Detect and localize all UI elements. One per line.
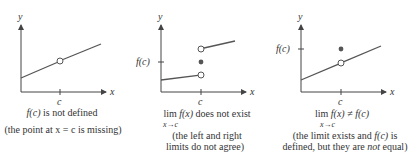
- y-axis-label: y: [298, 11, 302, 22]
- x-axis-label: x: [390, 86, 394, 97]
- x-axis-label: x: [110, 86, 114, 97]
- y-axis-label: y: [18, 11, 22, 22]
- limit-subscript: x→c: [163, 119, 178, 130]
- fx-text: f(x): [179, 108, 193, 119]
- panel-3-caption-line2: (the limit exists and f(c) is: [293, 130, 398, 141]
- caption-text: equal): [380, 141, 408, 152]
- filled-point-fc: [339, 47, 344, 52]
- inequality-text: f(x) ≠ f(c): [331, 108, 369, 119]
- lim-text: lim: [163, 108, 176, 119]
- c-label: c: [338, 96, 342, 107]
- panel-2-caption-line2: (the left and right: [172, 130, 242, 141]
- limit-subscript: x→c: [320, 119, 335, 130]
- y-axis-label: y: [158, 11, 162, 22]
- caption-text: is: [388, 130, 397, 141]
- panel-1-caption-line1: f(c) is not defined: [27, 107, 98, 118]
- caption-text: does not exist: [193, 108, 251, 119]
- c-label: c: [198, 96, 202, 107]
- c-label: c: [57, 96, 61, 107]
- x-axis-label: x: [250, 86, 254, 97]
- panel-3-graph: [298, 25, 386, 95]
- not-emphasis: not: [367, 141, 380, 152]
- panel-2-graph: [158, 25, 246, 95]
- function-line: [63, 44, 101, 60]
- panel-2-caption-line1: lim f(x) does not exist: [163, 108, 250, 119]
- open-point-left-limit: [198, 72, 204, 78]
- caption-text: is not defined: [40, 107, 97, 118]
- caption-text: (the limit exists and: [293, 130, 375, 141]
- panel-1-graph: [21, 25, 106, 95]
- right-segment: [204, 41, 235, 48]
- fc-label: f(c): [276, 43, 290, 54]
- fc-label: f(c): [136, 56, 150, 67]
- function-line: [344, 46, 381, 62]
- open-point-limit: [338, 60, 344, 66]
- left-segment: [161, 75, 198, 80]
- open-point-right-limit: [198, 46, 204, 52]
- panel-2-caption-line3: limits do not agree): [166, 141, 244, 152]
- filled-point-fc: [199, 60, 204, 65]
- lim-text: lim: [315, 108, 328, 119]
- caption-text: defined, but they are: [283, 141, 368, 152]
- function-line: [301, 64, 338, 80]
- panel-1-caption-line2: (the point at x = c is missing): [4, 124, 121, 135]
- panel-3-caption-line3: defined, but they are not equal): [283, 141, 408, 152]
- panel-3-caption-line1: lim f(x) ≠ f(c): [315, 108, 369, 119]
- fc-text: f(c): [27, 107, 41, 118]
- fc-text: f(c): [374, 130, 388, 141]
- open-point: [57, 58, 63, 64]
- function-line: [21, 63, 57, 79]
